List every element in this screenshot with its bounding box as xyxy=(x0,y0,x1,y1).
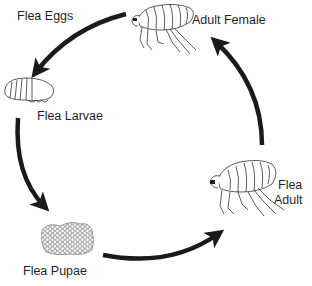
diagram-artwork xyxy=(0,0,312,286)
stage-label-pupae: Flea Pupae xyxy=(23,264,87,278)
stage-label-eggs: Flea Eggs xyxy=(17,9,73,23)
flea-adult-icon xyxy=(210,160,284,216)
flea-larva-icon xyxy=(5,78,54,102)
stage-label-adult-line2: Adult xyxy=(274,193,303,207)
stage-label-larvae: Flea Larvae xyxy=(37,109,103,123)
arrow-pupae-to-adult xyxy=(103,234,218,259)
adult-female-flea-icon xyxy=(132,4,196,54)
flea-pupae-icon xyxy=(42,222,94,254)
arrow-adult-to-female xyxy=(216,42,262,145)
flea-life-cycle-diagram: Flea Eggs Adult Female Flea Larvae Flea … xyxy=(0,0,312,286)
arrow-larvae-to-pupae xyxy=(18,118,44,206)
stage-label-adult-female: Adult Female xyxy=(192,13,266,27)
stage-label-adult-line1: Flea xyxy=(278,178,302,192)
